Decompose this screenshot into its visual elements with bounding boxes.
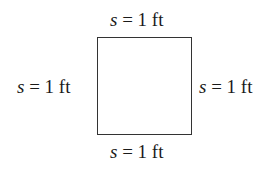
bottom-side-label: s = 1 ft xyxy=(110,142,163,161)
left-side-label: s = 1 ft xyxy=(17,77,70,96)
side-value: = 1 ft xyxy=(24,76,70,97)
right-side-label: s = 1 ft xyxy=(199,77,252,96)
top-side-label: s = 1 ft xyxy=(110,10,163,29)
side-value: = 1 ft xyxy=(206,76,252,97)
side-value: = 1 ft xyxy=(117,9,163,30)
square-shape xyxy=(97,37,192,135)
side-value: = 1 ft xyxy=(117,141,163,162)
